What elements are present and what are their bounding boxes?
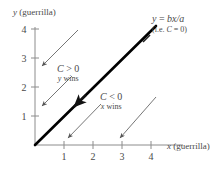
equation-operator: = xyxy=(156,13,167,24)
y-tick-label-3: 3 xyxy=(18,53,30,64)
x-tick-label-3: 3 xyxy=(116,151,128,162)
equation-annotation: y = bx/a (i.e. C = 0) xyxy=(152,13,187,34)
equation-note-rest: = 0) xyxy=(172,25,187,34)
stalemate-line-arrow xyxy=(74,95,86,107)
axes-group xyxy=(35,27,183,145)
y-tick-label-4: 4 xyxy=(18,24,30,35)
x-tick-label-4: 4 xyxy=(145,151,157,162)
y-tick-label-2: 2 xyxy=(18,82,30,93)
c-negative-symbol: C xyxy=(100,91,107,102)
trajectory-arrow-above-1 xyxy=(42,30,78,66)
c-negative-relation: < 0 xyxy=(107,91,123,102)
y-tick-label-1: 1 xyxy=(18,111,30,122)
region-label-c-negative: C < 0 x wins xyxy=(100,92,122,111)
region-label-c-positive: C > 0 y wins xyxy=(57,64,79,83)
x-axis-label-units: (guerrilla) xyxy=(171,141,210,151)
stalemate-line xyxy=(35,26,156,145)
guerrilla-warfare-phase-plot: y (guerrilla) x (guerrilla) 1 2 3 4 1 2 … xyxy=(0,0,218,176)
x-axis-label: x (guerrilla) xyxy=(167,141,210,151)
equation-line: y = bx/a xyxy=(152,13,187,25)
c-positive-relation: > 0 xyxy=(64,63,80,74)
x-tick-label-1: 1 xyxy=(58,151,70,162)
equation-note-open: (i.e. xyxy=(152,25,166,34)
y-axis-label-units: (guerrilla) xyxy=(17,7,56,17)
x-tick-label-2: 2 xyxy=(87,151,99,162)
c-positive-symbol: C xyxy=(57,63,64,74)
c-negative-caption: x wins xyxy=(100,103,122,111)
y-axis-label: y (guerrilla) xyxy=(13,7,56,17)
equation-rhs: bx/a xyxy=(167,13,184,24)
equation-note: (i.e. C = 0) xyxy=(152,25,187,34)
c-positive-caption: y wins xyxy=(57,75,79,83)
c-positive-caption-rest: wins xyxy=(61,74,78,83)
c-negative-caption-rest: wins xyxy=(104,102,121,111)
trajectory-arrow-below-2 xyxy=(120,97,156,138)
